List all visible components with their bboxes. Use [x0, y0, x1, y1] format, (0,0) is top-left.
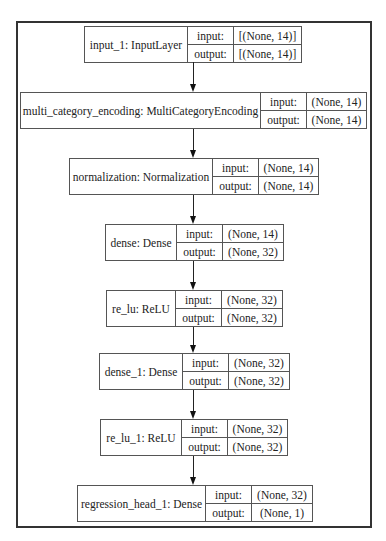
edge-line [193, 62, 194, 84]
output-label: output: [206, 504, 251, 521]
input-label: input: [213, 159, 258, 177]
layer-node-regression-head-1: regression_head_1: Dense input: output: … [77, 485, 313, 522]
output-shape: (None, 14) [307, 111, 366, 128]
input-label: input: [183, 354, 228, 372]
input-label: input: [206, 486, 251, 504]
layer-name: multi_category_encoding: MultiCategoryEn… [21, 93, 261, 128]
edge-line [193, 129, 194, 150]
output-label: output: [213, 177, 258, 194]
output-shape: [(None, 14)] [234, 45, 301, 62]
output-label: output: [183, 372, 228, 389]
layer-node-re-lu-1: re_lu_1: ReLU input: output: (None, 32) … [100, 419, 288, 456]
arrowhead-icon [190, 411, 196, 419]
layer-name: dense_1: Dense [100, 354, 183, 389]
edge-line [193, 456, 194, 477]
layer-name: normalization: Normalization [70, 159, 213, 194]
output-shape: (None, 32) [229, 372, 289, 389]
input-shape: (None, 32) [229, 354, 289, 372]
layer-node-dense: dense: Dense input: output: (None, 14) (… [105, 224, 284, 261]
layer-node-dense-1: dense_1: Dense input: output: (None, 32)… [99, 353, 290, 390]
arrowhead-icon [190, 84, 196, 92]
output-shape: (None, 32) [223, 243, 283, 260]
edge-line [193, 195, 194, 216]
output-label: output: [182, 438, 227, 455]
output-label: output: [188, 45, 233, 62]
arrowhead-icon [190, 477, 196, 485]
layer-node-multi-category-encoding: multi_category_encoding: MultiCategoryEn… [20, 92, 367, 129]
output-shape: (None, 32) [228, 438, 287, 455]
output-label: output: [261, 111, 306, 128]
arrowhead-icon [190, 345, 196, 353]
layer-name: re_lu_1: ReLU [101, 420, 182, 455]
output-shape: (None, 32) [222, 309, 282, 326]
layer-node-re-lu: re_lu: ReLU input: output: (None, 32) (N… [106, 290, 283, 327]
input-shape: (None, 14) [223, 225, 283, 243]
input-shape: [(None, 14)] [234, 27, 301, 45]
layer-name: input_1: InputLayer [85, 27, 188, 62]
layer-name: regression_head_1: Dense [78, 486, 206, 521]
layer-node-normalization: normalization: Normalization input: outp… [69, 158, 319, 195]
input-shape: (None, 14) [259, 159, 318, 177]
input-shape: (None, 32) [228, 420, 287, 438]
input-shape: (None, 32) [252, 486, 312, 504]
layer-node-input-1: input_1: InputLayer input: output: [(Non… [84, 26, 302, 63]
input-label: input: [261, 93, 306, 111]
arrowhead-icon [190, 216, 196, 224]
output-shape: (None, 1) [252, 504, 312, 521]
layer-name: re_lu: ReLU [107, 291, 176, 326]
input-label: input: [176, 291, 221, 309]
edge-line [193, 327, 194, 345]
output-label: output: [176, 309, 221, 326]
input-label: input: [182, 420, 227, 438]
input-shape: (None, 32) [222, 291, 282, 309]
arrowhead-icon [190, 150, 196, 158]
output-label: output: [177, 243, 222, 260]
input-shape: (None, 14) [307, 93, 366, 111]
edge-line [193, 390, 194, 411]
edge-line [193, 261, 194, 282]
output-shape: (None, 14) [259, 177, 318, 194]
arrowhead-icon [190, 282, 196, 290]
input-label: input: [188, 27, 233, 45]
input-label: input: [177, 225, 222, 243]
layer-name: dense: Dense [106, 225, 177, 260]
